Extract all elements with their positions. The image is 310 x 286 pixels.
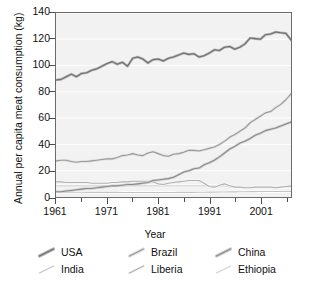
legend-item-china[interactable]: China (215, 246, 265, 258)
legend-label-usa: USA (61, 246, 83, 258)
x-tick-2001 (261, 198, 262, 204)
x-tick-1966 (81, 198, 82, 202)
x-tick-label-1971: 1971 (85, 205, 129, 217)
legend-swatch-icon-usa (38, 247, 55, 258)
y-tick-label-0: 0 (10, 191, 50, 203)
series-halo-brazil (56, 94, 291, 162)
x-tick-1991 (210, 198, 211, 204)
series-line-brazil (56, 94, 291, 162)
legend-label-india: India (61, 263, 84, 275)
x-tick-label-1981: 1981 (136, 205, 180, 217)
legend-label-liberia: Liberia (151, 263, 183, 275)
legend-label-china: China (238, 246, 265, 258)
legend-swatch-icon-ethiopia (215, 264, 232, 275)
legend-item-ethiopia[interactable]: Ethiopia (215, 263, 276, 275)
legend-item-liberia[interactable]: Liberia (128, 263, 183, 275)
legend-item-usa[interactable]: USA (38, 246, 83, 258)
legend-item-india[interactable]: India (38, 263, 84, 275)
legend-swatch-icon-india (38, 264, 55, 275)
x-tick-label-1991: 1991 (188, 205, 232, 217)
legend-item-brazil[interactable]: Brazil (128, 246, 177, 258)
x-tick-1981 (158, 198, 159, 204)
y-tick-label-40: 40 (10, 138, 50, 150)
data-series-lines (56, 13, 291, 197)
legend-swatch-icon-brazil (128, 247, 145, 258)
legend-swatch-icon-china (215, 247, 232, 258)
y-tick-label-60: 60 (10, 111, 50, 123)
y-tick-label-80: 80 (10, 85, 50, 97)
x-tick-1976 (132, 198, 133, 202)
x-tick-label-1961: 1961 (33, 205, 77, 217)
x-tick-1961 (55, 198, 56, 204)
x-tick-1971 (107, 198, 108, 204)
x-tick-1996 (235, 198, 236, 202)
x-axis-title: Year (0, 228, 310, 240)
legend-label-ethiopia: Ethiopia (238, 263, 276, 275)
y-tick-label-140: 140 (10, 5, 50, 17)
legend-swatch-icon-liberia (128, 264, 145, 275)
y-tick-label-20: 20 (10, 164, 50, 176)
meat-consumption-chart: Annual per capita meat consumption (kg) … (0, 0, 310, 286)
y-tick-label-100: 100 (10, 58, 50, 70)
legend-label-brazil: Brazil (151, 246, 177, 258)
legend: USABrazilChinaIndiaLiberiaEthiopia (38, 246, 300, 282)
x-tick-1986 (184, 198, 185, 202)
plot-panel (55, 12, 292, 198)
y-tick-label-120: 120 (10, 32, 50, 44)
series-halo-usa (56, 32, 291, 80)
x-tick-label-2001: 2001 (239, 205, 283, 217)
x-tick-2006 (287, 198, 288, 202)
